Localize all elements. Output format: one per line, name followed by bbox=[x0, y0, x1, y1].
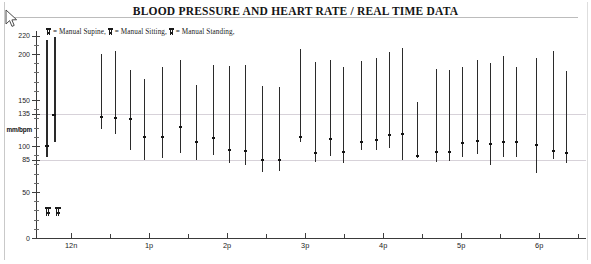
x-minor-tick bbox=[578, 234, 579, 238]
heart-rate-marker bbox=[565, 152, 568, 154]
heart-rate-marker bbox=[129, 118, 132, 120]
y-axis-label-150: 150 bbox=[2, 97, 30, 104]
heart-rate-marker bbox=[143, 136, 146, 138]
y-axis-label-135: 135 bbox=[2, 110, 30, 117]
x-minor-tick bbox=[266, 234, 267, 238]
x-tick-1p bbox=[149, 233, 150, 238]
heart-rate-marker bbox=[299, 136, 302, 138]
heart-rate-marker bbox=[435, 151, 438, 153]
x-tick-4p bbox=[383, 233, 384, 238]
heart-rate-marker bbox=[502, 141, 505, 143]
y-axis-label-220: 220 bbox=[2, 32, 30, 39]
bp-range-bar bbox=[343, 67, 344, 163]
y-axis-line bbox=[36, 31, 37, 239]
x-axis-label-4p: 4p bbox=[368, 241, 398, 250]
bp-range-bar bbox=[516, 67, 517, 157]
heart-rate-marker bbox=[461, 142, 464, 144]
chart-screenshot: BLOOD PRESSURE AND HEART RATE / REAL TIM… bbox=[0, 0, 591, 264]
bp-range-bar bbox=[449, 70, 450, 161]
bp-range-bar bbox=[130, 70, 131, 150]
bp-range-bar bbox=[144, 79, 145, 160]
x-tick-6p bbox=[539, 233, 540, 238]
x-axis-label-1p: 1p bbox=[134, 241, 164, 250]
heart-rate-marker bbox=[489, 143, 492, 145]
y-axis-label-50: 50 bbox=[2, 189, 30, 196]
y-axis-label-200: 200 bbox=[2, 51, 30, 58]
bp-range-bar bbox=[536, 58, 537, 173]
y-minor-tick bbox=[34, 82, 39, 83]
heart-rate-marker bbox=[179, 126, 182, 128]
heart-rate-marker bbox=[45, 145, 49, 147]
bp-range-bar bbox=[196, 85, 197, 160]
heart-rate-marker bbox=[100, 116, 103, 118]
manual-supine-glyph bbox=[45, 207, 51, 216]
y-minor-tick bbox=[34, 137, 39, 138]
x-minor-tick bbox=[110, 234, 111, 238]
bp-range-bar bbox=[490, 63, 491, 165]
heart-rate-marker bbox=[244, 150, 247, 152]
y-minor-tick bbox=[34, 210, 39, 211]
y-minor-tick bbox=[34, 118, 39, 119]
heart-rate-marker bbox=[52, 114, 56, 116]
y-minor-tick bbox=[34, 201, 39, 202]
y-tick-135 bbox=[32, 114, 40, 115]
x-minor-tick bbox=[344, 234, 345, 238]
heart-rate-marker bbox=[161, 136, 164, 138]
heart-rate-marker bbox=[342, 151, 345, 153]
y-minor-tick bbox=[34, 128, 39, 129]
manual-sitting-glyph bbox=[55, 207, 61, 216]
x-tick-12n bbox=[71, 233, 72, 238]
heart-rate-marker bbox=[552, 150, 555, 152]
y-tick-50 bbox=[32, 192, 40, 193]
y-minor-tick bbox=[34, 183, 39, 184]
heart-rate-marker bbox=[278, 159, 281, 161]
bp-range-bar bbox=[330, 60, 331, 156]
bp-range-bar bbox=[361, 61, 362, 149]
bp-range-bar bbox=[46, 40, 48, 157]
x-minor-tick bbox=[500, 234, 501, 238]
heart-rate-marker bbox=[314, 152, 317, 154]
y-minor-tick bbox=[34, 45, 39, 46]
heart-rate-marker bbox=[228, 149, 231, 151]
heart-rate-marker bbox=[195, 141, 198, 143]
bp-range-bar bbox=[213, 65, 214, 155]
bp-range-bar bbox=[553, 51, 554, 159]
bp-range-bar bbox=[436, 69, 437, 162]
gridline-85 bbox=[37, 160, 586, 161]
y-tick-0 bbox=[32, 238, 40, 239]
bp-range-bar bbox=[417, 102, 418, 158]
x-axis-line bbox=[36, 238, 586, 239]
heart-rate-marker bbox=[388, 134, 391, 136]
heart-rate-marker bbox=[535, 144, 538, 146]
x-minor-tick bbox=[422, 234, 423, 238]
heart-rate-marker bbox=[416, 155, 419, 157]
x-axis-label-6p: 6p bbox=[524, 241, 554, 250]
y-minor-tick bbox=[34, 164, 39, 165]
heart-rate-marker bbox=[360, 141, 363, 143]
y-tick-100 bbox=[32, 146, 40, 147]
y-axis-label-85: 85 bbox=[2, 156, 30, 163]
heart-rate-marker bbox=[261, 159, 264, 161]
heart-rate-marker bbox=[114, 117, 117, 119]
heart-rate-marker bbox=[375, 139, 378, 141]
y-axis-unit-label: mm/bpm bbox=[1, 126, 32, 133]
x-axis-label-12n: 12n bbox=[56, 241, 86, 250]
x-tick-5p bbox=[461, 233, 462, 238]
x-axis-label-3p: 3p bbox=[290, 241, 320, 250]
y-minor-tick bbox=[34, 220, 39, 221]
heart-rate-marker bbox=[401, 133, 404, 135]
x-tick-2p bbox=[227, 233, 228, 238]
y-tick-220 bbox=[32, 36, 40, 37]
heart-rate-marker bbox=[476, 140, 479, 142]
y-minor-tick bbox=[34, 63, 39, 64]
x-minor-tick bbox=[188, 234, 189, 238]
bp-range-bar bbox=[315, 62, 316, 161]
y-minor-tick bbox=[34, 229, 39, 230]
heart-rate-marker bbox=[212, 137, 215, 139]
bp-range-bar bbox=[566, 71, 567, 162]
y-minor-tick bbox=[34, 91, 39, 92]
y-tick-200 bbox=[32, 54, 40, 55]
bp-range-bar bbox=[115, 51, 116, 134]
y-minor-tick bbox=[34, 109, 39, 110]
x-axis-label-2p: 2p bbox=[212, 241, 242, 250]
